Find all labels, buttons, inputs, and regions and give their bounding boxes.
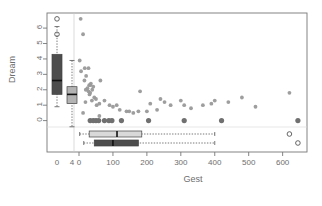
data-point [163,100,167,104]
data-point [182,103,186,107]
y-tick-label: 1 [35,101,44,106]
marginal-x-tick-label: 0 [55,158,60,167]
scatter-points [78,17,292,118]
boxplot-box [94,140,138,146]
data-point [136,109,140,113]
y-tick-label: 4 [35,55,44,60]
plot-frame [47,13,307,152]
data-point [81,111,85,115]
data-point [97,114,101,118]
data-point [98,79,102,83]
x-tick-label: 200 [140,158,154,167]
data-point [84,74,88,78]
x-axis-title: Gest [183,174,203,184]
data-point [78,59,82,63]
data-point [84,100,88,104]
data-point [179,99,183,103]
data-point [103,99,107,103]
boxplot-outlier [296,141,301,146]
x-marginal-boxplots [80,131,301,146]
x-axis: 0100200300400500600 [77,152,290,167]
zero-row-points [88,118,301,123]
y-tick-label: 0 [35,117,44,122]
data-point [111,105,115,109]
data-point [145,109,149,113]
data-point [94,97,98,101]
data-point-zero [109,118,114,123]
data-point [254,105,258,109]
data-point-zero [119,118,124,123]
data-point [115,103,119,107]
data-point [81,32,85,36]
data-point-zero [219,118,224,123]
boxplot-box [89,131,142,137]
data-point [209,102,213,106]
x-tick-label: 0 [77,158,82,167]
data-point [148,102,152,106]
data-point [169,103,173,107]
y-marginal-boxplots [52,17,77,127]
data-point [159,97,163,101]
y-tick-label: 2 [35,86,44,91]
boxplot-outlier [55,17,60,22]
scatter-plot-with-marginal-boxplots: 0123456Dream0100200300400500600Gest04 [0,0,322,206]
data-point-zero [146,118,151,123]
data-point [108,103,112,107]
data-point [83,66,87,70]
marginal-x-axis: 04 [55,158,75,167]
x-tick-label: 300 [174,158,188,167]
data-point [189,106,193,110]
data-point-zero [96,118,101,123]
x-tick-label: 400 [208,158,222,167]
data-point [118,108,122,112]
data-point [79,69,83,73]
y-tick-label: 5 [35,40,44,45]
boxplot-box [52,54,62,94]
data-point-zero [182,118,187,123]
data-point [79,17,83,21]
data-point [138,89,142,93]
data-point [131,111,135,115]
data-point-zero [295,118,300,123]
data-point [91,85,95,89]
data-point [87,66,91,70]
boxplot-outlier [287,132,292,137]
data-point [88,92,92,96]
data-point [97,102,101,106]
y-axis-title: Dream [7,56,17,83]
data-point [240,96,244,100]
data-point [90,99,94,103]
data-point [201,103,205,107]
y-axis: 0123456 [35,24,47,122]
x-tick-label: 500 [242,158,256,167]
plot-root: 0123456Dream0100200300400500600Gest04 [0,0,322,206]
y-tick-label: 3 [35,71,44,76]
y-tick-label: 6 [35,24,44,29]
data-point [155,108,159,112]
data-point [127,109,131,113]
marginal-x-tick-label: 4 [70,158,75,167]
data-point [83,79,87,83]
data-point [213,99,217,103]
x-tick-label: 600 [276,158,290,167]
data-point [226,100,230,104]
x-tick-label: 100 [106,158,120,167]
data-point [288,91,292,95]
